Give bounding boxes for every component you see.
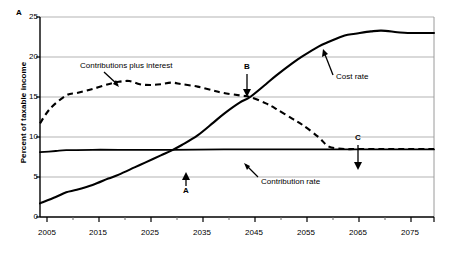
chart-figure: A Percent of taxable income 0 5 10 15 20… — [0, 0, 453, 261]
plot-canvas — [0, 0, 453, 261]
annotation-cost-rate: Cost rate — [336, 72, 368, 81]
marker-label-b: B — [244, 62, 250, 71]
annotation-contributions-plus-interest: Contributions plus interest — [80, 61, 173, 70]
gridlines — [40, 17, 434, 177]
series-contributions-plus-interest — [40, 81, 434, 149]
marker-label-c: C — [355, 133, 361, 142]
annotation-contribution-rate: Contribution rate — [261, 177, 320, 186]
marker-label-a: A — [183, 186, 189, 195]
series-contribution-rate — [40, 149, 434, 152]
x-axis — [40, 217, 434, 222]
y-axis — [36, 17, 40, 217]
